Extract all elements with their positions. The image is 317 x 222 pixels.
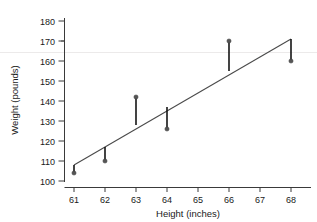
x-tick-label-63: 63 — [131, 195, 141, 205]
scatter-plot-figure: 180 170 160 150 140 130 120 110 100 Weig… — [0, 0, 317, 222]
y-tick-label-130: 130 — [40, 117, 55, 127]
y-tick-label-170: 170 — [40, 37, 55, 47]
y-tick-label-100: 100 — [40, 177, 55, 187]
y-tick-label-150: 150 — [40, 77, 55, 87]
x-tick-label-67: 67 — [255, 195, 265, 205]
x-tick-label-62: 62 — [100, 195, 110, 205]
x-tick-label-61: 61 — [69, 195, 79, 205]
x-tick-label-66: 66 — [224, 195, 234, 205]
data-point-2 — [134, 95, 138, 99]
data-point-5 — [289, 59, 293, 63]
x-tick-label-64: 64 — [162, 195, 172, 205]
chart-svg: 180 170 160 150 140 130 120 110 100 Weig… — [0, 0, 317, 222]
data-point-0 — [72, 171, 76, 175]
y-axis-tick-labels: 180 170 160 150 140 130 120 110 100 — [40, 17, 55, 187]
y-axis-title: Weight (pounds) — [9, 65, 20, 135]
x-axis-title: Height (inches) — [156, 208, 220, 219]
y-tick-label-110: 110 — [41, 157, 55, 167]
chart-background — [0, 0, 317, 222]
x-tick-label-68: 68 — [286, 195, 296, 205]
y-tick-label-180: 180 — [40, 17, 55, 27]
data-point-3 — [165, 127, 169, 131]
data-point-1 — [103, 159, 107, 163]
y-tick-label-160: 160 — [40, 57, 55, 67]
data-point-4 — [227, 39, 231, 43]
x-tick-label-65: 65 — [193, 195, 203, 205]
y-tick-label-120: 120 — [40, 137, 55, 147]
y-tick-label-140: 140 — [40, 97, 55, 107]
